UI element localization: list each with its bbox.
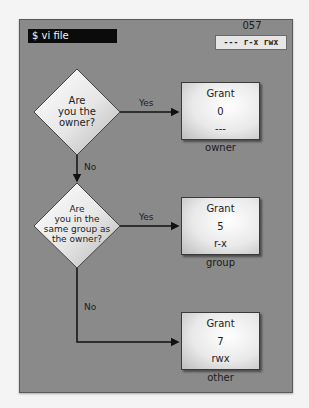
decision-text-line: same group as [36,224,118,234]
outcome-group: Grant 5 r-x [181,197,260,255]
outcome-title: Grant [182,88,259,99]
outcome-owner: Grant 0 --- [181,82,260,140]
outcome-other: Grant 7 rwx [181,312,260,370]
decision-text-line: the owner? [36,234,118,244]
decision-owner: Are you the owner? [44,95,110,128]
outcome-perms: r-x [182,238,259,249]
edge-label-yes-group: Yes [139,212,154,222]
edge-label-yes-owner: Yes [139,98,154,108]
outcome-perms: rwx [182,353,259,364]
outcome-title: Grant [182,318,259,329]
outcome-octal: 5 [182,221,259,232]
outcome-label-other: other [181,372,260,383]
outcome-octal: 0 [182,106,259,117]
outcome-perms: --- [182,123,259,134]
outcome-title: Grant [182,203,259,214]
decision-text-line: Are [44,95,110,106]
outcome-label-owner: owner [181,142,260,153]
decision-text-line: Are [36,204,118,214]
outcome-octal: 7 [182,336,259,347]
decision-text-line: owner? [44,117,110,128]
decision-text-line: you the [44,106,110,117]
decision-text-line: you in the [36,214,118,224]
edge-label-no-owner: No [84,162,96,172]
outcome-label-group: group [181,257,260,268]
edge-label-no-group: No [84,302,96,312]
decision-group: Are you in the same group as the owner? [36,204,118,244]
